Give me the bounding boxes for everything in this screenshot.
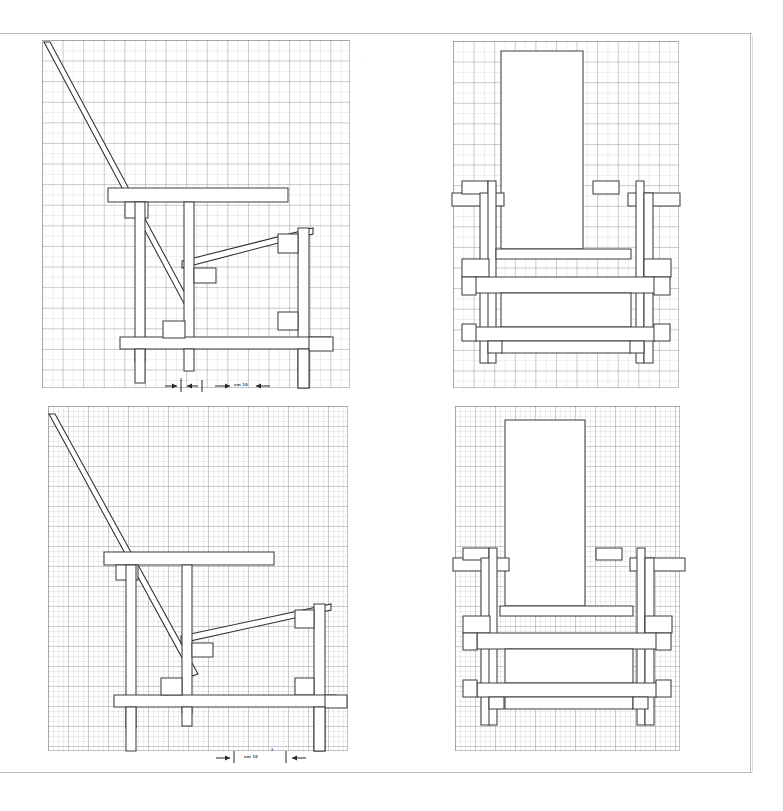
foot-bracket-left xyxy=(489,697,504,709)
cross-rail-lower xyxy=(475,327,655,341)
foot-bracket-left xyxy=(488,341,502,353)
side-rail-mid-left xyxy=(463,633,477,650)
bottom-side-rail xyxy=(114,695,336,707)
side-rail-upper-left xyxy=(463,616,490,633)
base-bracket-center xyxy=(163,321,185,338)
panel-side-elevation-fine xyxy=(48,406,348,751)
arm-bracket-right xyxy=(295,610,314,628)
cross-rail-lower xyxy=(477,683,657,697)
foot-bracket-right xyxy=(630,341,644,353)
backrest-slat xyxy=(44,42,194,311)
side-rail-low-left xyxy=(462,324,476,341)
page-frame-right-rule-shadow xyxy=(752,36,753,772)
side-rail-upper-right xyxy=(645,616,672,633)
scale-unit-label: cm 10 xyxy=(244,754,258,759)
page-frame-right-rule xyxy=(750,33,751,773)
side-rail-upper-left xyxy=(462,259,489,277)
scale-tick-label-small: 1 xyxy=(180,377,182,382)
leg-bracket-right xyxy=(278,312,298,330)
front-elevation-linework xyxy=(455,406,680,751)
arm-bracket-right xyxy=(596,548,622,560)
bottom-rail-extension xyxy=(309,337,333,351)
back-leg-post-foot xyxy=(184,349,194,371)
arm-bracket-left xyxy=(462,181,488,194)
side-rail-low-left xyxy=(463,680,477,697)
page-frame-top-rule xyxy=(0,33,752,34)
scale-bar-bottom-graphic xyxy=(212,748,310,764)
arm-bracket-right xyxy=(278,234,298,253)
cross-rail-seat xyxy=(477,633,657,649)
backrest-panel xyxy=(501,51,583,249)
foot-bracket-right xyxy=(633,697,648,709)
side-rail-mid-left xyxy=(462,277,476,295)
side-elevation-linework xyxy=(42,40,350,388)
rear-leg-foot xyxy=(298,349,309,388)
base-bracket-center xyxy=(161,678,182,695)
scale-unit-label: cm 10 xyxy=(234,382,248,387)
front-post-foot xyxy=(135,349,145,383)
side-rail-low-right xyxy=(656,680,671,697)
scale-bar-top-graphic xyxy=(160,378,272,394)
seat-panel xyxy=(500,606,633,616)
back-upper-rail xyxy=(108,188,288,202)
scale-bar-top-left: 1 cm 10 xyxy=(160,378,272,396)
back-leg-post xyxy=(182,565,192,713)
back-upper-rail xyxy=(104,552,274,565)
rear-leg-foot xyxy=(314,707,325,751)
bottom-side-rail xyxy=(120,337,330,349)
panel-side-elevation-coarse xyxy=(42,40,350,388)
scan-speck xyxy=(363,62,365,63)
bottom-rail-extension xyxy=(325,695,347,708)
scale-bar-bottom-left: 1 cm 10 xyxy=(212,748,310,766)
stretcher-box xyxy=(505,649,633,683)
seat-panel xyxy=(496,249,631,259)
cross-rail-seat xyxy=(475,277,655,293)
front-elevation-linework xyxy=(453,41,679,388)
stretcher-box xyxy=(501,293,631,327)
back-leg-post-foot xyxy=(182,707,192,726)
side-rail-mid-right xyxy=(654,277,670,295)
drawing-sheet: 1 cm 10 1 cm 10 xyxy=(0,0,783,811)
panel-front-elevation-coarse xyxy=(453,41,679,388)
scale-tick-label-small: 1 xyxy=(271,747,273,752)
side-elevation-linework xyxy=(48,406,348,751)
backrest-panel xyxy=(505,420,585,606)
page-frame-bottom-rule xyxy=(0,772,752,773)
leg-bracket-right xyxy=(295,678,314,695)
front-post-foot xyxy=(126,707,136,751)
side-rail-mid-right xyxy=(656,633,671,650)
side-rail-low-right xyxy=(654,324,670,341)
seat-bracket xyxy=(192,643,213,657)
bottom-stretcher xyxy=(505,697,633,709)
seat-bracket xyxy=(194,268,216,283)
panel-front-elevation-fine xyxy=(455,406,680,751)
bottom-stretcher xyxy=(501,341,631,353)
arm-bracket-right xyxy=(593,181,619,194)
side-rail-upper-right xyxy=(644,259,671,277)
backrest-slat xyxy=(49,414,198,676)
